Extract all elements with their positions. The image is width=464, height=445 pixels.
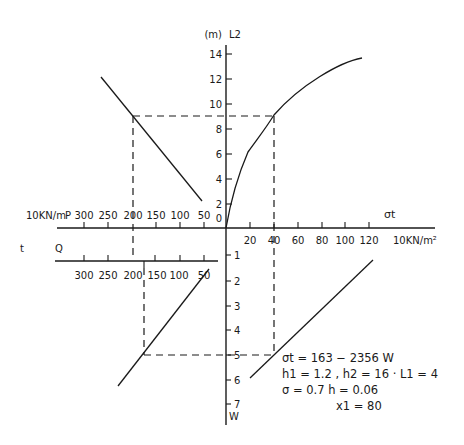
svg-text:100: 100	[335, 235, 354, 246]
svg-text:6: 6	[234, 375, 240, 386]
svg-text:14: 14	[209, 49, 222, 60]
Q-unit-label: t	[20, 243, 24, 254]
equation-h1-h2-L1: h1 = 1.2 , h2 = 16 · L1 = 4	[282, 367, 438, 381]
sigma-t-tick-labels: 20 40 60 80 100 120	[244, 235, 379, 246]
equation-sigma-t: σt = 163 − 2356 W	[282, 351, 394, 365]
nomogram-diagram: 0 2 4 6 8 10 12 14 (m) L2 20 40 60 80 10…	[0, 0, 464, 445]
L2-P-line	[101, 77, 202, 201]
L2-tick-labels: 0 2 4 6 8 10 12 14	[209, 49, 222, 224]
equation-sigma-h: σ = 0.7 h = 0.06	[282, 383, 378, 397]
svg-text:8: 8	[216, 124, 222, 135]
P-unit-label: 10KN/m	[26, 210, 66, 221]
svg-text:12: 12	[209, 74, 222, 85]
svg-text:100: 100	[170, 210, 189, 221]
W-tick-labels: 1 2 3 4 5 6 7	[234, 250, 240, 410]
W-axis-name: W	[229, 411, 239, 422]
svg-text:200: 200	[123, 270, 142, 281]
L2-sigma-curve	[226, 58, 362, 228]
Q-tick-labels: 300 250 200 150 100 50	[74, 270, 210, 281]
svg-text:1: 1	[234, 250, 240, 261]
P-axis-name: P	[65, 210, 71, 221]
L2-ticks	[226, 54, 232, 204]
L2-axis-name: L2	[229, 29, 241, 40]
L2-unit-label: (m)	[204, 29, 222, 40]
svg-text:50: 50	[198, 210, 211, 221]
svg-text:120: 120	[359, 235, 378, 246]
sigma-t-axis-name: σt	[384, 208, 396, 221]
P-tick-labels: 300 250 200 150 100 50	[74, 210, 210, 221]
sigma-t-ticks	[250, 222, 369, 228]
svg-text:4: 4	[234, 325, 240, 336]
svg-text:7: 7	[234, 399, 240, 410]
svg-text:80: 80	[316, 235, 329, 246]
svg-text:10: 10	[209, 99, 222, 110]
W-Q-line	[118, 269, 209, 386]
svg-text:6: 6	[216, 149, 222, 160]
svg-text:3: 3	[234, 301, 240, 312]
W-ticks	[226, 255, 231, 404]
svg-text:250: 250	[98, 210, 117, 221]
svg-text:4: 4	[216, 174, 222, 185]
Q-axis-name: Q	[55, 243, 63, 254]
svg-text:20: 20	[244, 235, 257, 246]
parameter-equations: σt = 163 − 2356 W h1 = 1.2 , h2 = 16 · L…	[282, 351, 438, 413]
svg-text:150: 150	[147, 270, 166, 281]
svg-text:0: 0	[216, 213, 222, 224]
svg-text:2: 2	[234, 276, 240, 287]
svg-text:2: 2	[216, 199, 222, 210]
svg-text:300: 300	[74, 210, 93, 221]
svg-text:300: 300	[74, 270, 93, 281]
sigma-t-unit-label: 10KN/m²	[393, 235, 437, 246]
svg-text:100: 100	[169, 270, 188, 281]
equation-x1: x1 = 80	[336, 399, 382, 413]
svg-text:250: 250	[98, 270, 117, 281]
P-ticks	[84, 222, 204, 228]
svg-text:60: 60	[292, 235, 305, 246]
svg-text:150: 150	[146, 210, 165, 221]
